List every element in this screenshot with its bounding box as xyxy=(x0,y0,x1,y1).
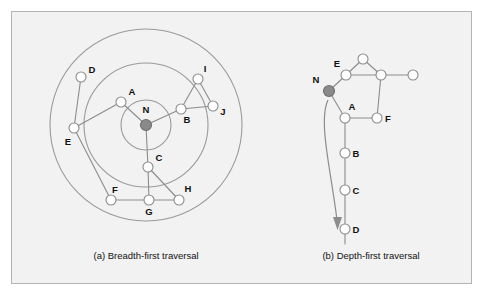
edge-a-e xyxy=(74,102,121,128)
traversal-arrow-path xyxy=(324,100,337,220)
node-label-i: I xyxy=(204,63,207,74)
node-label-j: J xyxy=(220,106,225,117)
node-mid-unlabeled[interactable] xyxy=(376,70,386,80)
figure-frame: N A B C D E F G H I J (a) Breadth-first … xyxy=(11,11,472,284)
node-label-e: E xyxy=(65,136,71,147)
node-label-c: C xyxy=(156,152,163,163)
panel-b-labels: N E A F B C D xyxy=(313,58,392,235)
panel-b-traversal-arrow xyxy=(324,100,342,230)
node-label-b: B xyxy=(184,114,191,125)
node-label-n: N xyxy=(143,104,150,115)
node-n-root[interactable] xyxy=(324,86,335,97)
node-f[interactable] xyxy=(106,195,116,205)
node-label-d: D xyxy=(89,64,96,75)
panel-b-depth-first: N E A F B C D (b) Depth-first traversal xyxy=(313,54,420,261)
node-n-root[interactable] xyxy=(141,120,152,131)
node-label-a: A xyxy=(129,86,136,97)
node-d[interactable] xyxy=(76,72,86,82)
node-a[interactable] xyxy=(340,113,350,123)
node-label-f: F xyxy=(112,184,118,195)
node-b[interactable] xyxy=(340,148,350,158)
node-i[interactable] xyxy=(193,74,203,84)
node-b[interactable] xyxy=(176,104,186,114)
node-label-d: D xyxy=(353,224,360,235)
node-label-n: N xyxy=(313,74,320,85)
node-e[interactable] xyxy=(341,70,351,80)
traversal-diagram-svg: N A B C D E F G H I J (a) Breadth-first … xyxy=(12,12,471,283)
node-right-unlabeled[interactable] xyxy=(408,70,418,80)
edge-e-f xyxy=(74,128,111,200)
node-label-e: E xyxy=(334,58,340,69)
node-e[interactable] xyxy=(69,123,79,133)
panel-a-breadth-first: N A B C D E F G H I J (a) Breadth-first … xyxy=(50,29,242,261)
panel-b-nodes xyxy=(324,54,419,234)
node-label-f: F xyxy=(385,113,391,124)
node-label-c: C xyxy=(353,185,360,196)
panel-a-nodes xyxy=(69,72,218,205)
caption-depth-first: (b) Depth-first traversal xyxy=(322,250,419,261)
node-a[interactable] xyxy=(116,97,126,107)
node-c[interactable] xyxy=(143,162,153,172)
node-f[interactable] xyxy=(372,113,382,123)
node-label-a: A xyxy=(349,101,356,112)
node-label-g: G xyxy=(145,206,152,217)
node-j[interactable] xyxy=(208,101,218,111)
edge-n-c xyxy=(146,125,148,167)
edge-d-e xyxy=(74,77,81,128)
node-top-unlabeled[interactable] xyxy=(358,54,368,64)
edge-c-h xyxy=(148,167,179,200)
edge-f-mid xyxy=(377,75,381,118)
node-label-h: H xyxy=(185,183,192,194)
node-label-b: B xyxy=(353,148,360,159)
caption-breadth-first: (a) Breadth-first traversal xyxy=(93,250,198,261)
node-h[interactable] xyxy=(174,195,184,205)
node-c[interactable] xyxy=(340,185,350,195)
panel-a-edges xyxy=(74,77,213,200)
node-d[interactable] xyxy=(340,224,350,234)
node-g[interactable] xyxy=(144,195,154,205)
